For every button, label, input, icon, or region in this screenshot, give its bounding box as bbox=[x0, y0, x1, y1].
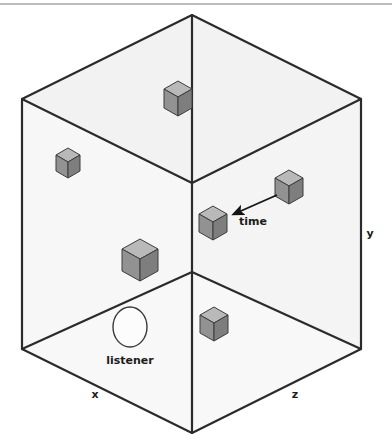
listener-label: listener bbox=[106, 354, 154, 367]
cube-center bbox=[199, 206, 227, 240]
cube-floor bbox=[200, 307, 228, 341]
axis-label-x: x bbox=[91, 388, 98, 401]
time-label: time bbox=[239, 215, 267, 228]
listener-ellipse bbox=[113, 307, 147, 347]
cube-right-upper bbox=[275, 170, 303, 204]
room-diagram-svg: listener time x z y bbox=[0, 0, 392, 447]
cube-ceiling bbox=[164, 81, 192, 116]
axis-label-y: y bbox=[366, 227, 373, 240]
figure-container: listener time x z y bbox=[0, 0, 392, 447]
axis-label-z: z bbox=[292, 388, 298, 401]
cube-left-upper bbox=[56, 148, 80, 178]
